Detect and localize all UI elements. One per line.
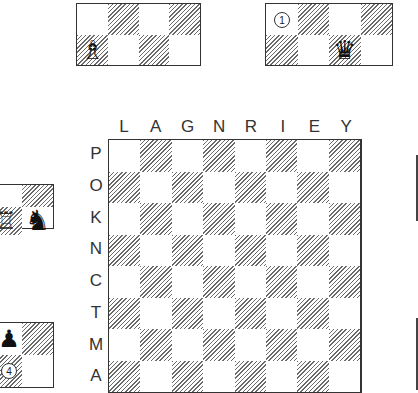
- file-label: Y: [336, 117, 356, 137]
- board-square[interactable]: [203, 203, 234, 235]
- board-square[interactable]: [329, 329, 360, 361]
- board-square[interactable]: [297, 235, 328, 267]
- board-square[interactable]: [329, 298, 360, 330]
- board-square[interactable]: [203, 329, 234, 361]
- board-square[interactable]: [297, 140, 328, 172]
- board-square[interactable]: [297, 298, 328, 330]
- board-square[interactable]: [329, 361, 360, 393]
- board-square[interactable]: [235, 203, 266, 235]
- mini-board-left-pawn: ♟ 4: [0, 322, 54, 388]
- board-square[interactable]: [140, 298, 171, 330]
- mini-square: [298, 4, 330, 35]
- rank-label: A: [86, 366, 106, 386]
- file-label: E: [305, 117, 325, 137]
- board-square[interactable]: [297, 329, 328, 361]
- board-square[interactable]: [172, 298, 203, 330]
- board-square[interactable]: [109, 203, 140, 235]
- board-square[interactable]: [203, 298, 234, 330]
- black-pawn-icon: ♟: [0, 327, 20, 351]
- board-square[interactable]: [203, 266, 234, 298]
- board-square[interactable]: [297, 361, 328, 393]
- board-square[interactable]: [172, 266, 203, 298]
- rank-label: M: [86, 335, 106, 355]
- board-square[interactable]: [203, 172, 234, 204]
- board-square[interactable]: [329, 235, 360, 267]
- board-square[interactable]: [140, 329, 171, 361]
- board-square[interactable]: [140, 140, 171, 172]
- mini-board-left-knight: ♖ ♞: [0, 184, 54, 229]
- board-square[interactable]: [329, 266, 360, 298]
- board-square[interactable]: [109, 329, 140, 361]
- board-square[interactable]: [172, 329, 203, 361]
- mini-square: [298, 35, 330, 66]
- board-square[interactable]: [235, 298, 266, 330]
- board-square[interactable]: [297, 172, 328, 204]
- file-label: A: [146, 117, 166, 137]
- black-knight-icon: ♞: [25, 207, 50, 235]
- mini-square: [169, 4, 200, 35]
- file-label: I: [273, 117, 293, 137]
- board-square[interactable]: [235, 361, 266, 393]
- mini-board-right-top-edge: [416, 155, 418, 221]
- board-square[interactable]: [266, 329, 297, 361]
- board-square[interactable]: [140, 203, 171, 235]
- board-square[interactable]: [329, 140, 360, 172]
- board-square[interactable]: [266, 298, 297, 330]
- board-square[interactable]: [109, 266, 140, 298]
- board-square[interactable]: [297, 203, 328, 235]
- mini-square: ♛: [329, 35, 361, 66]
- board-square[interactable]: [266, 361, 297, 393]
- rank-label: C: [86, 271, 106, 291]
- board-square[interactable]: [235, 329, 266, 361]
- mini-board-top-right: 1♛: [265, 3, 393, 66]
- board-square[interactable]: [329, 203, 360, 235]
- board-square[interactable]: [297, 266, 328, 298]
- board-square[interactable]: [266, 172, 297, 204]
- rank-label: K: [86, 208, 106, 228]
- board-square[interactable]: [172, 235, 203, 267]
- board-square[interactable]: [235, 172, 266, 204]
- board-square[interactable]: [266, 266, 297, 298]
- mini-square: [77, 4, 108, 35]
- rank-label: O: [86, 176, 106, 196]
- mini-square: [361, 35, 393, 66]
- board-square[interactable]: [266, 140, 297, 172]
- mini-square: [139, 4, 170, 35]
- mini-square: ♗: [77, 35, 108, 66]
- board-square[interactable]: [109, 298, 140, 330]
- move-number-marker: 1: [274, 12, 290, 28]
- file-label: N: [209, 117, 229, 137]
- file-label: G: [178, 117, 198, 137]
- board-square[interactable]: [140, 266, 171, 298]
- board-square[interactable]: [266, 203, 297, 235]
- board-square[interactable]: [203, 361, 234, 393]
- board-square[interactable]: [266, 235, 297, 267]
- rank-label: N: [86, 239, 106, 259]
- board-square[interactable]: [203, 140, 234, 172]
- board-square[interactable]: [235, 266, 266, 298]
- mini-square: [329, 4, 361, 35]
- board-square[interactable]: [109, 235, 140, 267]
- board-square[interactable]: [140, 172, 171, 204]
- board-square[interactable]: [109, 140, 140, 172]
- mini-board-right-bottom-edge: [416, 318, 418, 390]
- rank-label: T: [86, 303, 106, 323]
- board-square[interactable]: [109, 172, 140, 204]
- white-rook-icon: ♖: [0, 209, 17, 233]
- board-square[interactable]: [140, 361, 171, 393]
- board-square[interactable]: [203, 235, 234, 267]
- mini-square: [139, 35, 170, 66]
- mini-square: [266, 35, 298, 66]
- board-square[interactable]: [172, 203, 203, 235]
- board-square[interactable]: [172, 172, 203, 204]
- board-square[interactable]: [140, 235, 171, 267]
- board-square[interactable]: [172, 361, 203, 393]
- mini-board-top-left: ♗: [76, 3, 201, 66]
- board-square[interactable]: [235, 235, 266, 267]
- board-square[interactable]: [172, 140, 203, 172]
- board-square[interactable]: [109, 361, 140, 393]
- chess-board[interactable]: [108, 139, 362, 393]
- board-square[interactable]: [329, 172, 360, 204]
- board-square[interactable]: [235, 140, 266, 172]
- file-label: R: [241, 117, 261, 137]
